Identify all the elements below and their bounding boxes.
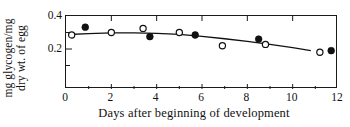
x-tick-label: 6 — [198, 91, 204, 103]
chart-figure: mg glycogen/mg dry wt. of egg 0.20.4 024… — [0, 0, 350, 127]
y-axis-title-line-2: dry wt. of egg — [15, 6, 28, 110]
x-tick-label: 12 — [331, 91, 343, 103]
data-markers — [69, 24, 335, 56]
axis-ticks — [66, 16, 315, 89]
x-tick-label: 0 — [62, 91, 68, 103]
x-tick-label: 10 — [286, 91, 298, 103]
x-tick-label: 4 — [153, 91, 159, 103]
y-tick-label: 0.4 — [36, 9, 62, 21]
plot-area — [65, 15, 337, 88]
x-tick-label: 8 — [243, 91, 249, 103]
plot-svg — [66, 16, 338, 89]
y-axis-title-line-1: mg glycogen/mg — [2, 6, 15, 110]
y-axis-title: mg glycogen/mg dry wt. of egg — [0, 0, 40, 100]
x-axis-title-text: Days after beginning of development — [60, 106, 289, 121]
x-tick-label: 2 — [107, 91, 113, 103]
y-axis-tick-labels: 0.20.4 — [36, 0, 62, 100]
y-tick-label: 0.2 — [36, 42, 62, 54]
x-axis-title: Days after beginning of development — [0, 106, 350, 121]
fitted-curve — [68, 33, 311, 51]
